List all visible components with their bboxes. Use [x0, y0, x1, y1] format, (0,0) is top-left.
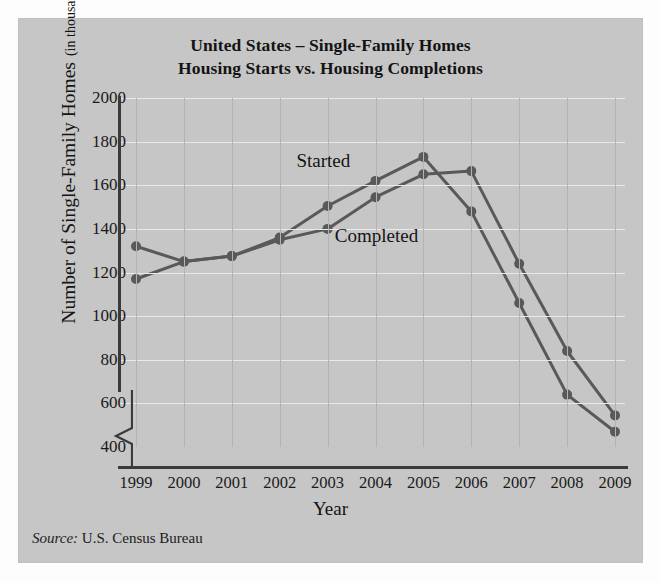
chart-title: United States – Single-Family Homes Hous… [18, 34, 643, 80]
gridline-v-2008 [567, 98, 568, 447]
gridline-v-2007 [519, 98, 520, 447]
gridline-h-2000 [118, 98, 625, 99]
gridline-v-2006 [471, 98, 472, 447]
series-label-completed: Completed [335, 225, 418, 247]
source-text: U.S. Census Bureau [82, 530, 203, 546]
gridline-h-1800 [118, 142, 625, 143]
x-axis-title: Year [18, 498, 643, 520]
chart-title-line1: United States – Single-Family Homes [18, 34, 643, 57]
gridline-v-2002 [280, 98, 281, 447]
series-label-started: Started [296, 150, 350, 172]
x-axis-line [118, 466, 628, 469]
y-axis-title-main: Number of Single-Family Homes [58, 62, 80, 324]
x-tick-label-2009: 2009 [585, 473, 645, 493]
gridline-v-2000 [184, 98, 185, 447]
plot-area: StartedCompleted [118, 98, 625, 447]
page-background: United States – Single-Family Homes Hous… [0, 0, 661, 582]
gridline-v-1999 [136, 98, 137, 447]
axis-break-icon [111, 388, 133, 468]
y-axis-line [118, 96, 121, 392]
y-axis-title: Number of Single-Family Homes (in thousa… [58, 5, 82, 295]
gridline-v-2009 [615, 98, 616, 447]
gridline-v-2005 [423, 98, 424, 447]
gridline-h-800 [118, 360, 625, 361]
gridline-v-2004 [376, 98, 377, 447]
gridline-v-2001 [232, 98, 233, 447]
gridline-h-600 [118, 403, 625, 404]
y-tick-label-800: 800 [66, 350, 126, 370]
y-axis-title-sub: (in thousands) [63, 0, 79, 56]
gridline-h-1200 [118, 273, 625, 274]
gridline-h-1600 [118, 185, 625, 186]
gridline-h-1000 [118, 316, 625, 317]
source-label: Source: [32, 530, 78, 546]
chart-figure-panel: United States – Single-Family Homes Hous… [18, 18, 643, 563]
source-note: Source: U.S. Census Bureau [32, 530, 203, 547]
chart-title-line2: Housing Starts vs. Housing Completions [18, 57, 643, 80]
